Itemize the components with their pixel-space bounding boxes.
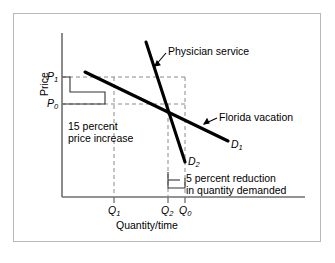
x-axis-title: Quantity/time (116, 219, 178, 231)
curve-symbol-d2: D2 (188, 155, 200, 168)
y-tick-label-p0: P0 (47, 97, 58, 110)
x-tick-label-q0: Q0 (179, 204, 191, 217)
curve-label-physician-service: Physician service (168, 45, 249, 57)
demand-curve-physician-service (146, 42, 185, 162)
curve-symbol-d1: D1 (231, 138, 243, 151)
leader-arrow-florida (204, 119, 209, 124)
x-tick-label-q2: Q2 (161, 204, 173, 217)
price-bracket-path (62, 77, 105, 104)
curve-label-florida-vacation: Florida vacation (219, 111, 293, 123)
x-tick-label-q1: Q1 (108, 204, 120, 217)
annotation-quantity-reduction: 5 percent reduction in quantity demanded (186, 172, 286, 197)
annotation-quantity-line2: in quantity demanded (186, 184, 286, 196)
annotation-price-increase: 15 percent price increase (68, 120, 133, 145)
figure-container: Price P1 P0 Q1 Q2 Q0 Quantity/time Physi… (0, 0, 335, 263)
quantity-reduction-bracket (168, 172, 185, 188)
leader-florida-vacation (204, 118, 217, 124)
annotation-quantity-line1: 5 percent reduction (186, 172, 276, 184)
leader-physician-service (155, 53, 166, 66)
annotation-price-line2: price increase (68, 132, 133, 144)
annotation-price-line1: 15 percent (68, 120, 118, 132)
price-increase-bracket (62, 77, 105, 104)
y-tick-label-p1: P1 (47, 70, 58, 83)
axis-ticks (114, 197, 185, 203)
